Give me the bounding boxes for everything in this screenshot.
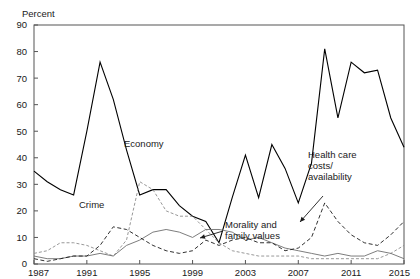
y-tick-label: 70 xyxy=(16,73,27,84)
y-tick-label: 10 xyxy=(16,232,27,243)
x-tick-label: 2007 xyxy=(288,267,309,278)
y-tick-label: 40 xyxy=(16,152,27,163)
annotation-label-line: costs/ xyxy=(308,160,333,171)
annotation-label-line: family values xyxy=(225,230,280,241)
y-tick-label: 50 xyxy=(16,126,27,137)
x-tick-label: 2015 xyxy=(389,267,410,278)
y-tick-label: 0 xyxy=(22,258,27,269)
annotation-label-economy: Economy xyxy=(124,138,164,149)
y-tick-label: 20 xyxy=(16,205,27,216)
x-tick-label: 1991 xyxy=(76,267,97,278)
y-tick-label: 60 xyxy=(16,99,27,110)
x-tick-label: 2011 xyxy=(341,267,361,278)
x-tick-label: 1987 xyxy=(28,267,49,278)
y-tick-label: 90 xyxy=(16,19,27,30)
percent-line-chart: 0102030405060708090 19871991199519992003… xyxy=(0,0,420,279)
annotation-label-line: availability xyxy=(308,171,352,182)
y-axis-label: Percent xyxy=(22,8,55,19)
chart-background xyxy=(0,0,420,279)
x-tick-label: 1999 xyxy=(182,267,203,278)
annotation-label-morality: Morality andfamily values xyxy=(225,219,280,241)
annotation-label-line: Morality and xyxy=(225,219,277,230)
y-tick-label: 80 xyxy=(16,46,27,57)
annotation-label-line: Economy xyxy=(124,138,164,149)
annotation-label-crime: Crime xyxy=(79,199,104,210)
annotation-label-line: Health care xyxy=(308,149,357,160)
x-tick-label: 1995 xyxy=(129,267,150,278)
chart-container: 0102030405060708090 19871991199519992003… xyxy=(0,0,420,279)
x-tick-label: 2003 xyxy=(235,267,256,278)
y-tick-label: 30 xyxy=(16,179,27,190)
annotation-label-line: Crime xyxy=(79,199,104,210)
